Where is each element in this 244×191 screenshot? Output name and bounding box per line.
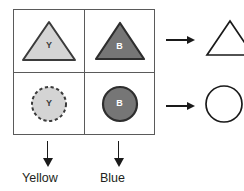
feature-matrix-grid: Y B Y xyxy=(13,9,155,135)
matrix-cell-top-right: B xyxy=(84,10,154,72)
right-arrow-icon xyxy=(166,101,196,111)
row-output-top xyxy=(166,17,244,63)
diagram-canvas: Y B Y xyxy=(0,0,244,191)
row-output-bottom xyxy=(166,83,244,129)
shape-circle-yellow: Y xyxy=(29,84,69,124)
column-label-yellow: Yellow xyxy=(22,172,58,185)
down-arrow-icon xyxy=(113,141,124,167)
matrix-cell-bottom-right: B xyxy=(84,72,154,134)
shape-letter-label: Y xyxy=(46,41,52,50)
shape-triangle-blue: B xyxy=(93,20,147,62)
right-arrow-icon xyxy=(166,35,196,45)
shape-letter-label: B xyxy=(116,42,123,51)
shape-circle-blue: B xyxy=(100,84,140,124)
down-arrow-icon xyxy=(42,141,53,167)
output-triangle-outline xyxy=(203,17,244,63)
shape-letter-label: Y xyxy=(46,99,52,108)
triangle-shape-icon xyxy=(203,17,244,59)
shape-letter-label: B xyxy=(116,99,123,108)
circle-shape-icon xyxy=(203,83,244,125)
matrix-cell-top-left: Y xyxy=(14,10,84,72)
output-circle-outline xyxy=(203,83,244,129)
matrix-cell-bottom-left: Y xyxy=(14,72,84,134)
column-label-blue: Blue xyxy=(100,172,125,185)
shape-triangle-yellow: Y xyxy=(20,19,78,63)
